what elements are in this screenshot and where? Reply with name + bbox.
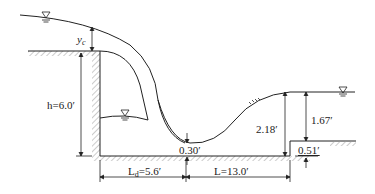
label-drop-height: h=6.0′ — [47, 100, 75, 111]
upstream-bed — [28, 51, 100, 56]
drop-wall — [92, 51, 100, 156]
label-jump-depth: 2.18′ — [256, 124, 278, 135]
water-surface-marker-pool — [121, 110, 129, 120]
label-tailwater-depth: 1.67′ — [311, 115, 333, 126]
dim-jump-depth — [283, 92, 287, 156]
dim-drop-height — [76, 53, 92, 156]
label-critical-depth: yc — [77, 34, 85, 47]
label-min-depth: 0.30′ — [179, 145, 201, 156]
dim-tailwater-depth — [304, 92, 308, 141]
label-sill-height: 0.51′ — [298, 145, 320, 156]
label-drop-length: Ld=5.6′ — [128, 166, 161, 179]
dim-critical-depth — [90, 27, 94, 51]
drop-structure-diagram — [0, 0, 375, 194]
basin-floor — [92, 156, 310, 161]
nappe-upper-surface — [20, 15, 185, 143]
label-jump-length: L=13.0′ — [214, 166, 249, 177]
